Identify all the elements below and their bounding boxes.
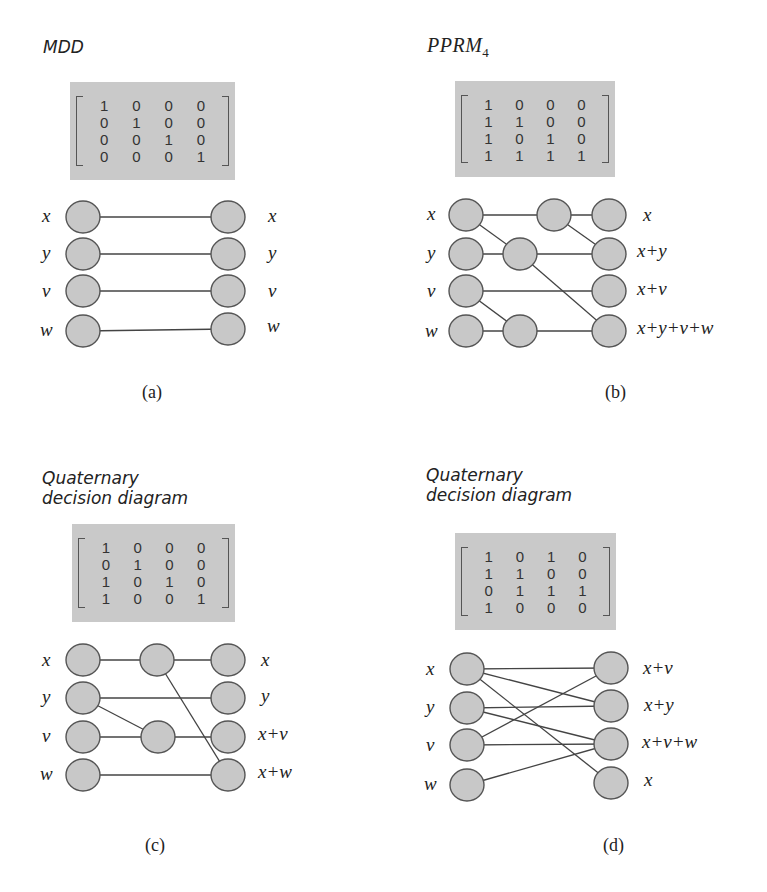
node-r2	[211, 238, 245, 270]
matrix-cell: 1	[473, 599, 504, 616]
matrix-cell: 0	[504, 548, 535, 565]
left-bracket	[76, 96, 83, 166]
node-lw	[66, 759, 100, 791]
matrix-cell: 0	[120, 148, 152, 165]
matrix-cell: 1	[567, 582, 598, 599]
input-label: y	[42, 687, 50, 707]
matrix-cell: 1	[185, 590, 217, 607]
matrix-cell: 1	[536, 548, 567, 565]
panel-d-graph	[450, 652, 628, 801]
node-m2	[141, 721, 175, 753]
figure: MDD1000010000100001xyvwxyvw(a)PPRM410001…	[0, 0, 767, 892]
input-label: x	[427, 204, 435, 224]
panel-title: PPRM4	[427, 35, 489, 63]
matrix-cell: 1	[504, 113, 535, 130]
node-ly	[66, 682, 100, 714]
matrix-cell: 1	[566, 147, 597, 164]
output-label: x+v+w	[642, 732, 697, 752]
matrix-cell: 0	[120, 131, 152, 148]
matrix-cell: 0	[504, 96, 535, 113]
panel-title: Quaternary decision diagram	[426, 465, 572, 505]
input-label: v	[42, 726, 50, 746]
node-ly	[66, 238, 100, 270]
input-label: x	[42, 206, 50, 226]
matrix-cell: 1	[473, 130, 504, 147]
panel-title-text: MDD	[43, 37, 84, 57]
matrix-cell: 0	[473, 582, 504, 599]
output-label: x	[643, 205, 651, 225]
node-r4	[594, 767, 628, 799]
right-bracket	[603, 547, 610, 616]
node-r2	[211, 682, 245, 714]
matrix-cell: 1	[120, 114, 152, 131]
matrix-cell: 0	[122, 539, 154, 556]
node-r1	[211, 644, 245, 676]
matrix-cell: 0	[185, 573, 217, 590]
left-bracket	[461, 547, 468, 616]
edge	[467, 744, 611, 785]
matrix-cell: 0	[535, 113, 566, 130]
node-r4	[211, 313, 245, 345]
edge	[83, 329, 228, 331]
transform-matrix: 1000110010101111	[455, 81, 615, 177]
matrix-cell: 0	[185, 114, 217, 131]
panel-b-graph	[449, 199, 626, 347]
node-r4	[592, 315, 626, 347]
matrix-cell: 1	[473, 96, 504, 113]
matrix-cell: 1	[504, 147, 535, 164]
panel-title: Quaternary decision diagram	[42, 468, 188, 508]
matrix-cell: 1	[88, 97, 120, 114]
matrix-cell: 0	[185, 539, 217, 556]
matrix-cell: 1	[90, 573, 122, 590]
panel-c-graph	[66, 644, 245, 791]
output-label: y	[268, 243, 276, 263]
matrix-cell: 0	[567, 599, 598, 616]
node-r2	[594, 690, 628, 722]
node-r3	[211, 721, 245, 753]
matrix-cell: 0	[153, 148, 185, 165]
node-lw	[449, 315, 483, 347]
input-label: v	[427, 281, 435, 301]
node-m1	[537, 199, 571, 231]
output-label: x+v	[637, 279, 667, 299]
matrix-cell: 0	[185, 131, 217, 148]
node-m2	[503, 238, 537, 270]
output-label: x+y+v+w	[637, 318, 713, 338]
matrix-cell: 0	[154, 539, 186, 556]
matrix-cell: 0	[153, 97, 185, 114]
transform-matrix: 1000010000100001	[70, 82, 235, 180]
matrix-cell: 1	[473, 113, 504, 130]
matrix-cell: 1	[535, 147, 566, 164]
output-label: x	[268, 206, 276, 226]
matrix-cell: 0	[566, 96, 597, 113]
transform-matrix: 1000010010101001	[72, 524, 235, 622]
panel-title-subscript: 4	[482, 45, 489, 60]
matrix-cell: 0	[504, 130, 535, 147]
node-r1	[592, 199, 626, 231]
panel-caption: (d)	[603, 835, 624, 856]
panel-title-text: Quaternary decision diagram	[426, 465, 572, 505]
matrix-cell: 1	[504, 582, 535, 599]
matrix-cell: 1	[122, 556, 154, 573]
right-bracket	[222, 538, 229, 608]
node-lw	[450, 769, 484, 801]
input-label: v	[426, 735, 434, 755]
matrix-cell: 1	[90, 539, 122, 556]
node-lv	[66, 721, 100, 753]
right-bracket	[222, 96, 229, 166]
node-lv	[66, 275, 100, 307]
right-bracket	[602, 95, 609, 163]
node-ly	[450, 692, 484, 724]
matrix-cell: 1	[504, 565, 535, 582]
edge	[467, 668, 611, 669]
output-label: x+v	[643, 658, 673, 678]
edge	[467, 669, 611, 706]
matrix-cell: 0	[154, 590, 186, 607]
node-m3	[503, 315, 537, 347]
matrix-cell: 0	[154, 556, 186, 573]
matrix-cell: 0	[504, 599, 535, 616]
edge	[467, 708, 611, 744]
output-label: x+w	[258, 762, 292, 782]
output-label: y	[261, 686, 269, 706]
node-r1	[211, 201, 245, 233]
